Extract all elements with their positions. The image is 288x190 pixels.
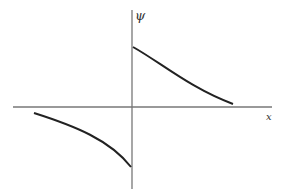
y-axis-label: ψ xyxy=(135,8,146,23)
curve-positive-x xyxy=(133,47,233,104)
curve-negative-x xyxy=(34,113,131,167)
psi-plot: ψ x xyxy=(0,0,288,190)
x-axis-label: x xyxy=(266,111,272,122)
